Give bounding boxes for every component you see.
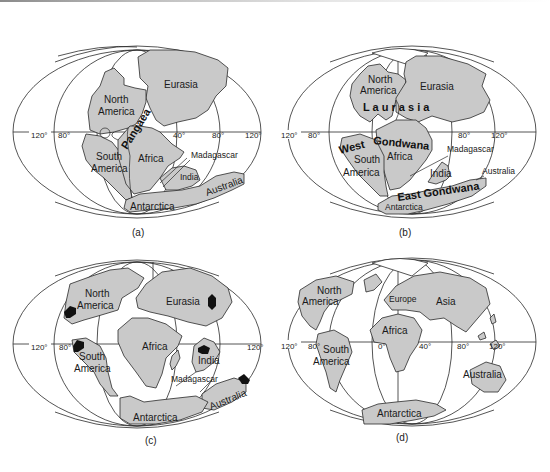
panel-b-label-africa: Africa [387, 151, 413, 162]
panel-c-label-eurasia: Eurasia [166, 296, 200, 307]
panel-b-caption: (b) [399, 227, 411, 238]
panel-d-label-africa: Africa [382, 325, 408, 336]
panel-d-lon-e80: 80° [457, 342, 469, 351]
panel-d-lon-0: 0° [378, 342, 386, 351]
panel-d-label-south: South [323, 344, 349, 355]
panel-c-label-south: South [79, 351, 105, 362]
panel-a-lon-e40: 40° [173, 131, 185, 140]
panel-a-label-america: America [98, 106, 135, 117]
panel-d-label-south-america: America [313, 356, 350, 367]
panel-a-lon-e120: 120° [245, 131, 262, 140]
panel-a-caption: (a) [132, 227, 144, 238]
panel-d-label-australia: Australia [463, 369, 502, 380]
panel-a-label-madagascar: Madagascar [191, 150, 238, 160]
panel-b-label-laurasia: L a u r a s i a [363, 101, 430, 113]
panel-d-label-north: North [317, 285, 341, 296]
panel-d-lon-w120: 120° [281, 342, 298, 351]
panel-a-label-india: India [180, 172, 199, 182]
panel-c-label-madagascar: Madagascar [171, 374, 218, 384]
panel-c-breakup: 120° 80° 120° North America Eurasia Afri… [13, 260, 264, 446]
panel-b-lon-e120: 120° [491, 131, 508, 140]
panel-c-label-america: America [77, 300, 114, 311]
panel-d-present-day: 120° 80° 0° 40° 80° 120° North America E… [279, 258, 536, 443]
panel-c-caption: (c) [145, 435, 157, 446]
panel-c-label-antarctica: Antarctica [133, 412, 178, 423]
panel-b-lon-w120: 120° [281, 131, 298, 140]
panel-b-label-madagascar: Madagascar [447, 144, 494, 154]
panel-b-label-north: North [368, 74, 392, 85]
panel-d-label-asia: Asia [436, 296, 456, 307]
panel-c-label-africa: Africa [142, 341, 168, 352]
panel-b-lon-e80: 80° [458, 131, 470, 140]
panel-c-lon-w120: 120° [31, 343, 48, 352]
panel-d-lon-e120: 120° [489, 342, 506, 351]
panel-a-label-south: South [96, 151, 122, 162]
panel-a-label-eurasia: Eurasia [164, 79, 198, 90]
panel-b-lon-w80: 80° [308, 131, 320, 140]
panel-b-label-south-america: America [343, 167, 380, 178]
panel-c-label-india: India [198, 355, 220, 366]
panel-b-label-eurasia: Eurasia [420, 81, 454, 92]
panel-a-lon-e80: 80° [212, 131, 224, 140]
panel-d-greenland-shape [364, 274, 382, 292]
panel-d-lon-e40: 40° [419, 342, 431, 351]
panel-d-label-europe: Europe [389, 294, 417, 304]
panel-a-label-north: North [104, 94, 128, 105]
panel-a-pangaea: 120° 80° 40° 80° 120° Eurasia North Amer… [13, 46, 262, 238]
panel-c-label-south-america: America [74, 363, 111, 374]
panel-c-lon-w80: 80° [59, 343, 71, 352]
panel-b-label-india: India [430, 168, 452, 179]
panel-d-lon-w80: 80° [308, 342, 320, 351]
panel-c-label-north: North [85, 288, 109, 299]
panel-d-caption: (d) [396, 432, 408, 443]
panel-b-label-antarctica: Antarctica [385, 202, 423, 212]
panel-d-label-america: America [302, 296, 339, 307]
panel-a-lon-w80: 80° [58, 131, 70, 140]
panel-a-label-antarctica: Antarctica [130, 201, 175, 212]
panel-b-label-america: America [360, 85, 397, 96]
panel-b-label-south: South [354, 154, 380, 165]
panel-b-label-australia: Australia [482, 166, 515, 176]
panel-d-label-antarctica: Antarctica [377, 408, 422, 419]
panel-a-lon-w120: 120° [31, 131, 48, 140]
panel-a-label-africa: Africa [138, 153, 164, 164]
continental-drift-figure: 120° 80° 40° 80° 120° Eurasia North Amer… [0, 0, 550, 472]
panel-a-label-south-america: America [91, 163, 128, 174]
panel-b-laurasia-gondwana: 120° 80° 80° 120° North America Eurasia … [279, 46, 536, 238]
panel-c-lon-e120: 120° [247, 343, 264, 352]
